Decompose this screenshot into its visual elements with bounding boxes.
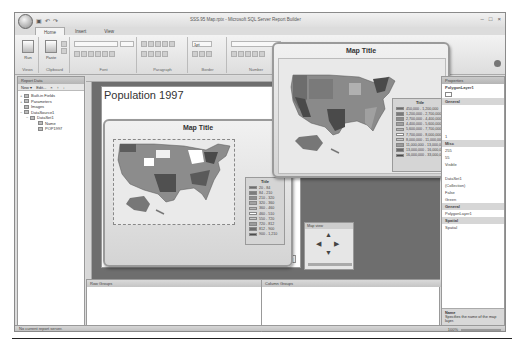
map-preview: Map Title Title 450,000 - 1,200,000 xyxy=(272,42,450,178)
property-row[interactable]: PolygonLayer1 xyxy=(442,210,504,217)
ribbon-group-views: Run Views xyxy=(17,37,39,73)
legend-items: 450,000 - 1,200,0001,200,000 - 2,700,000… xyxy=(393,106,447,158)
legend-items: 20 - 8484 - 210210 - 320320 - 360360 - 4… xyxy=(246,185,284,237)
ribbon-group-border: 1pt Border xyxy=(189,37,227,73)
save-icon[interactable]: ▣ xyxy=(36,17,42,24)
paste-button[interactable]: Paste xyxy=(43,40,59,64)
border-style-button[interactable] xyxy=(192,51,198,57)
application-menu-button[interactable] xyxy=(18,14,33,29)
border-color-button[interactable] xyxy=(199,51,205,57)
property-row[interactable]: False xyxy=(442,189,504,196)
dataset-icon xyxy=(30,116,35,120)
property-row[interactable]: 55 xyxy=(442,154,504,161)
property-row[interactable]: Spatial xyxy=(442,224,504,231)
percent-button[interactable] xyxy=(238,51,244,57)
property-row[interactable]: 1 xyxy=(442,133,504,140)
map-design-viewport[interactable] xyxy=(113,139,235,225)
property-row[interactable]: DataSet1 xyxy=(442,175,504,182)
font-color-button[interactable] xyxy=(95,51,101,57)
map-design-title[interactable]: Map Title xyxy=(105,124,291,131)
selected-object[interactable]: PolygonLayer1 xyxy=(442,84,504,91)
pan-right-icon[interactable]: ▶ xyxy=(334,240,339,248)
property-row[interactable] xyxy=(442,168,504,175)
borders-button[interactable] xyxy=(206,51,212,57)
delete-button[interactable]: × xyxy=(50,85,52,89)
property-row[interactable]: (Collection) xyxy=(442,182,504,189)
divider-line xyxy=(12,338,512,339)
bold-button[interactable] xyxy=(74,51,80,57)
copy-icon[interactable] xyxy=(61,48,67,54)
legend-swatch xyxy=(396,117,404,121)
zoom-slider[interactable] xyxy=(461,329,501,331)
property-category[interactable]: General xyxy=(442,98,504,105)
legend-swatch xyxy=(249,186,257,190)
legend-swatch xyxy=(249,233,257,237)
property-row[interactable] xyxy=(442,119,504,126)
border-width-select[interactable]: 1pt xyxy=(192,41,212,47)
ribbon-group-paragraph: Paragraph xyxy=(138,37,188,73)
legend-swatch xyxy=(249,217,257,221)
move-down-button[interactable]: ↓ xyxy=(63,85,65,89)
grow-font-button[interactable] xyxy=(102,51,108,57)
help-icon[interactable] xyxy=(494,60,501,67)
pan-down-icon[interactable]: ▼ xyxy=(325,249,332,256)
property-row[interactable] xyxy=(442,105,504,112)
map-design-legend[interactable]: Title 20 - 8484 - 210210 - 320320 - 3603… xyxy=(245,177,285,245)
property-row[interactable]: 255 xyxy=(442,147,504,154)
tree-item-field-pop1997[interactable]: POP1997 xyxy=(20,126,82,132)
legend-swatch xyxy=(396,122,404,126)
map-design[interactable]: Map Title Title 20 - 8484 - 210210 xyxy=(103,119,293,267)
cut-icon[interactable] xyxy=(61,41,67,47)
property-row[interactable]: Visible xyxy=(442,161,504,168)
underline-button[interactable] xyxy=(88,51,94,57)
indent-button[interactable] xyxy=(169,41,175,47)
move-up-button[interactable]: ↑ xyxy=(57,85,59,89)
align-center-button[interactable] xyxy=(148,41,154,47)
comma-button[interactable] xyxy=(245,51,251,57)
edit-button[interactable]: Edit... xyxy=(36,85,46,89)
legend-swatch xyxy=(249,196,257,200)
property-category[interactable]: Misc xyxy=(442,140,504,147)
report-data-toolbar: New ▾ Edit... × ↑ ↓ xyxy=(18,84,84,91)
font-size-select[interactable] xyxy=(120,41,134,47)
shrink-font-button[interactable] xyxy=(109,51,115,57)
italic-button[interactable] xyxy=(81,51,87,57)
zoom-slider[interactable] xyxy=(308,263,352,266)
pan-left-icon[interactable]: ◀ xyxy=(316,240,321,248)
close-button[interactable]: × xyxy=(497,16,501,22)
property-row[interactable] xyxy=(442,126,504,133)
redo-icon[interactable]: ↷ xyxy=(53,17,58,24)
design-surface[interactable]: Population 1997 [&ExecutionTime] Map Tit… xyxy=(86,76,440,279)
property-category[interactable]: Spatial xyxy=(442,217,504,224)
align-right-button[interactable] xyxy=(155,41,161,47)
maximize-button[interactable]: □ xyxy=(489,16,493,22)
legend-swatch xyxy=(396,107,404,111)
new-button[interactable]: New ▾ xyxy=(21,85,32,89)
categorized-icon[interactable] xyxy=(445,92,452,97)
property-row[interactable]: Green xyxy=(442,196,504,203)
run-button[interactable]: Run xyxy=(20,40,36,64)
run-icon xyxy=(22,40,34,53)
property-row[interactable] xyxy=(442,112,504,119)
currency-button[interactable] xyxy=(231,51,237,57)
undo-icon[interactable]: ↶ xyxy=(45,17,50,24)
folder-icon xyxy=(24,94,29,98)
align-middle-button[interactable] xyxy=(148,51,154,57)
legend-label: 210 - 320 xyxy=(259,196,274,200)
align-bottom-button[interactable] xyxy=(155,51,161,57)
legend-swatch xyxy=(249,227,257,231)
align-left-button[interactable] xyxy=(141,41,147,47)
minimize-button[interactable]: – xyxy=(481,16,484,22)
property-category[interactable]: General xyxy=(442,203,504,210)
legend-label: 2,700,000 - 4,400,000 xyxy=(406,117,441,121)
report-title-textbox[interactable]: Population 1997 xyxy=(104,89,184,101)
align-justify-button[interactable] xyxy=(162,41,168,47)
increase-decimal-button[interactable] xyxy=(252,51,258,57)
pan-up-icon[interactable]: ▲ xyxy=(325,231,332,238)
legend-label: 360 - 460 xyxy=(259,206,274,210)
decrease-decimal-button[interactable] xyxy=(259,51,265,57)
properties-panel: Properties PolygonLayer1 General1Misc255… xyxy=(441,76,505,331)
bullets-button[interactable] xyxy=(162,51,168,57)
align-top-button[interactable] xyxy=(141,51,147,57)
font-name-select[interactable] xyxy=(74,41,118,47)
